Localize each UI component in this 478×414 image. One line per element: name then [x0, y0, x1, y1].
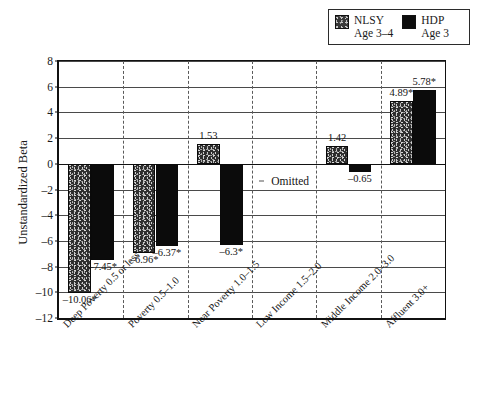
y-tick-label--10: –10 — [36, 286, 53, 298]
y-tick-mark-0 — [55, 163, 59, 164]
y-tick-label--8: –8 — [42, 261, 54, 273]
bar-value-label-hdp-4: –0.65 — [348, 173, 372, 184]
y-tick-mark--12 — [55, 318, 59, 319]
omitted-dash-icon — [259, 180, 264, 181]
bar-hdp-2 — [220, 164, 243, 245]
y-tick-mark--10 — [55, 292, 59, 293]
hdp-swatch-icon — [402, 15, 416, 29]
y-tick-label-6: 6 — [47, 81, 53, 93]
bar-hdp-0 — [91, 164, 114, 260]
y-tick-mark-6 — [55, 86, 59, 87]
bar-nlsy-2 — [197, 144, 220, 164]
y-tick-mark-8 — [55, 61, 59, 62]
legend-entry-nlsy-text: NLSY Age 3–4 — [354, 14, 393, 40]
bar-nlsy-1 — [133, 164, 156, 253]
bar-value-label-nlsy-4: 1.42 — [328, 132, 346, 143]
omitted-note: Omitted — [271, 175, 309, 187]
bar-hdp-1 — [156, 164, 179, 246]
category-separator-5 — [381, 61, 382, 318]
bar-hdp-4 — [349, 164, 372, 172]
y-tick-mark--8 — [55, 266, 59, 267]
bar-value-label-hdp-2: –6.3* — [219, 246, 243, 257]
bar-value-label-nlsy-2: 1.53 — [199, 130, 217, 141]
y-tick-label-0: 0 — [47, 158, 53, 170]
legend-entry-nlsy: NLSY Age 3–4 — [335, 14, 393, 40]
legend-sublabel-nlsy: Age 3–4 — [354, 27, 393, 40]
bar-value-label-nlsy-5: 4.89* — [390, 87, 414, 98]
y-tick-label--4: –4 — [42, 209, 54, 221]
y-axis-title: Unstandardized Beta — [16, 108, 31, 278]
legend-label-nlsy: NLSY — [354, 14, 393, 27]
y-tick-mark-2 — [55, 138, 59, 139]
nlsy-swatch-icon — [335, 15, 349, 29]
legend-entry-hdp: HDP Age 3 — [402, 14, 449, 40]
y-tick-label-8: 8 — [47, 55, 53, 67]
bar-hdp-5 — [413, 90, 436, 164]
y-tick-label-2: 2 — [47, 132, 53, 144]
y-tick-label--12: –12 — [36, 312, 53, 324]
y-tick-mark--2 — [55, 189, 59, 190]
legend-sublabel-hdp: Age 3 — [421, 27, 449, 40]
y-tick-mark--4 — [55, 215, 59, 216]
chart-legend: NLSY Age 3–4 HDP Age 3 — [328, 9, 470, 45]
bar-nlsy-4 — [326, 146, 349, 164]
category-separator-1 — [123, 61, 124, 318]
y-tick-label--6: –6 — [42, 235, 54, 247]
y-tick-label--2: –2 — [42, 184, 54, 196]
bar-nlsy-0 — [68, 164, 91, 293]
y-tick-label-4: 4 — [47, 106, 53, 118]
bar-value-label-hdp-1: –6.37* — [152, 247, 181, 258]
category-separator-2 — [188, 61, 189, 318]
category-separator-3 — [252, 61, 253, 318]
bar-nlsy-5 — [390, 101, 413, 164]
bar-chart-figure: NLSY Age 3–4 HDP Age 3 Unstandardized Be… — [0, 0, 478, 414]
y-tick-mark--6 — [55, 240, 59, 241]
legend-entry-hdp-text: HDP Age 3 — [421, 14, 449, 40]
y-tick-mark-4 — [55, 112, 59, 113]
bar-value-label-hdp-5: 5.78* — [412, 76, 436, 87]
category-separator-4 — [316, 61, 317, 318]
legend-label-hdp: HDP — [421, 14, 449, 27]
